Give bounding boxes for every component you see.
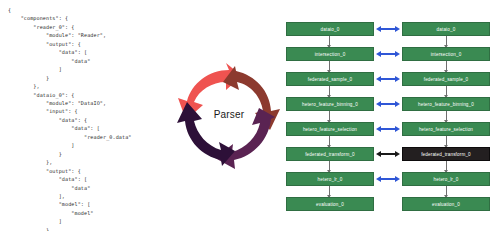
dag-row: intersection_0 intersection_0 xyxy=(286,47,490,61)
dag-node-left[interactable]: federated_transform_0 xyxy=(286,147,374,161)
dag-flow-connector-left xyxy=(329,186,330,197)
dag-link xyxy=(375,72,401,86)
dag-node-right[interactable]: hetero_feature_selection xyxy=(402,122,490,136)
dag-node-left[interactable]: intersection_0 xyxy=(286,47,374,61)
dag-node-left[interactable]: hetero_feature_binning_0 xyxy=(286,97,374,111)
dag-node-right[interactable]: intersection_0 xyxy=(402,47,490,61)
dag-flow-connector-left xyxy=(329,161,330,172)
diagram-canvas: { "components": { "reader_0": { "module"… xyxy=(0,0,494,231)
json-config-pane: { "components": { "reader_0": { "module"… xyxy=(8,6,184,226)
dag-flow-connector-right xyxy=(446,186,447,197)
dag-node-left[interactable]: federated_sample_0 xyxy=(286,72,374,86)
dag-flow-connector-right xyxy=(446,111,447,122)
pipeline-dag: dataio_0 dataio_0 intersection_0 interse… xyxy=(286,22,490,222)
dag-node-left[interactable]: dataio_0 xyxy=(286,22,374,36)
dag-link xyxy=(375,172,401,186)
dag-flow-connector-right xyxy=(446,36,447,47)
dag-row: dataio_0 dataio_0 xyxy=(286,22,490,36)
dag-link xyxy=(375,47,401,61)
dag-link xyxy=(375,97,401,111)
dag-flow-connector-left xyxy=(329,86,330,97)
dag-flow-connector-left xyxy=(329,36,330,47)
dag-link xyxy=(375,22,401,36)
dag-link-highlight xyxy=(375,147,401,161)
dag-node-right[interactable]: hetero_feature_binning_0 xyxy=(402,97,490,111)
dag-node-right[interactable]: evaluation_0 xyxy=(402,197,490,211)
parser-cycle-graphic: Parser xyxy=(176,62,282,172)
dag-row: federated_sample_0 federated_sample_0 xyxy=(286,72,490,86)
dag-row: federated_transform_0 federated_transfor… xyxy=(286,147,490,161)
dag-row: evaluation_0 evaluation_0 xyxy=(286,197,490,211)
dag-node-right[interactable]: hetero_lr_0 xyxy=(402,172,490,186)
dag-node-left[interactable]: hetero_lr_0 xyxy=(286,172,374,186)
dag-node-right[interactable]: dataio_0 xyxy=(402,22,490,36)
dag-node-left[interactable]: evaluation_0 xyxy=(286,197,374,211)
dag-row: hetero_lr_0 hetero_lr_0 xyxy=(286,172,490,186)
dag-row: hetero_feature_selection hetero_feature_… xyxy=(286,122,490,136)
dag-flow-connector-left xyxy=(329,111,330,122)
parser-label: Parser xyxy=(176,109,282,120)
dag-flow-connector-right xyxy=(446,86,447,97)
dag-row: hetero_feature_binning_0 hetero_feature_… xyxy=(286,97,490,111)
dag-node-right[interactable]: federated_sample_0 xyxy=(402,72,490,86)
dag-flow-connector-right xyxy=(446,61,447,72)
parser-segment-2 xyxy=(223,66,280,130)
dag-flow-connector-right xyxy=(446,136,447,147)
dag-node-left[interactable]: hetero_feature_selection xyxy=(286,122,374,136)
dag-link xyxy=(375,122,401,136)
dag-flow-connector-left xyxy=(329,136,330,147)
dag-flow-connector-right xyxy=(446,161,447,172)
json-config-code: { "components": { "reader_0": { "module"… xyxy=(8,6,184,231)
dag-node-right-highlight[interactable]: federated_transform_0 xyxy=(402,147,490,161)
dag-flow-connector-left xyxy=(329,61,330,72)
